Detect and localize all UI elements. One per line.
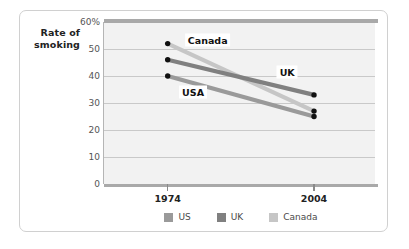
legend-label: UK [231, 212, 244, 222]
data-point-marker [165, 41, 170, 46]
legend-entry-uk: UK [217, 212, 244, 222]
series-annotation-usa: USA [179, 86, 207, 99]
legend-swatch-icon [217, 213, 226, 222]
series-annotation-canada: Canada [185, 33, 231, 46]
legend-entry-canada: Canada [269, 212, 317, 222]
data-point-marker [311, 114, 316, 119]
legend-swatch-icon [164, 213, 173, 222]
data-point-marker [311, 92, 316, 97]
series-annotation-uk: UK [277, 65, 298, 78]
legend-swatch-icon [269, 213, 278, 222]
legend-entry-us: US [164, 212, 190, 222]
data-point-marker [165, 57, 170, 62]
legend-label: US [178, 212, 190, 222]
chart-figure: Rate of smoking 60%50403020100 19742004 … [0, 0, 409, 249]
data-point-marker [311, 108, 316, 113]
chart-legend: USUKCanada [104, 210, 378, 224]
data-point-marker [165, 73, 170, 78]
legend-label: Canada [283, 212, 317, 222]
